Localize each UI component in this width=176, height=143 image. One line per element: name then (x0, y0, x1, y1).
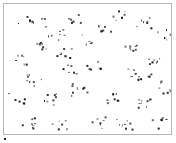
micrograph-frame (3, 3, 172, 135)
particle-field (4, 4, 171, 134)
scale-marker (4, 138, 6, 140)
